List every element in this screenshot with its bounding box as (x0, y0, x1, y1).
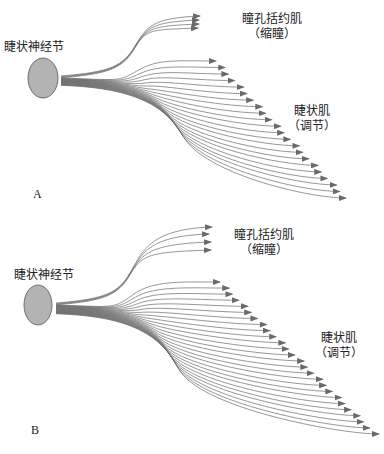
ciliary-ganglion (28, 58, 58, 98)
ciliary-fiber (56, 282, 220, 306)
sphincter-fiber (56, 250, 211, 305)
ciliary-fiber (61, 84, 321, 172)
ciliary-fiber (61, 83, 309, 159)
sphincter-fiber (56, 227, 212, 303)
ciliary-fiber (61, 61, 216, 80)
sphincter-fiber (61, 28, 198, 78)
ciliary-fiber (56, 311, 332, 391)
ciliary-function-a: （调节） (284, 119, 340, 134)
sphincter-label-b: 瞳孔括约肌 （缩瞳） (226, 228, 302, 258)
ciliary-fiber (56, 313, 360, 416)
ciliary-fiber (56, 313, 364, 422)
panel-letter-b: B (31, 423, 39, 438)
ciliary-fiber (56, 312, 342, 398)
ciliary-fiber (56, 288, 229, 307)
ciliary-label-b: 睫状肌 （调节） (311, 331, 367, 361)
sphincter-name-b: 瞳孔括约肌 (226, 228, 302, 243)
sphincter-fiber (61, 24, 199, 77)
ganglion-label-a: 睫状神经节 (4, 40, 64, 55)
ciliary-function-b: （调节） (311, 346, 367, 361)
ganglion-label-b: 睫状神经节 (14, 268, 74, 283)
diagram-canvas (0, 0, 384, 454)
sphincter-label-a: 瞳孔括约肌 （缩瞳） (234, 12, 310, 42)
ciliary-fiber (61, 85, 346, 198)
sphincter-function-a: （缩瞳） (234, 27, 310, 42)
panel-letter-a: A (33, 187, 42, 202)
ciliary-ganglion (24, 285, 52, 325)
ciliary-fiber (56, 311, 326, 385)
ciliary-name-b: 睫状肌 (311, 331, 367, 346)
ciliary-label-a: 睫状肌 （调节） (284, 104, 340, 134)
ciliary-name-a: 睫状肌 (284, 104, 340, 119)
sphincter-name-a: 瞳孔括约肌 (234, 12, 310, 27)
sphincter-fiber (56, 234, 209, 304)
sphincter-function-b: （缩瞳） (226, 243, 302, 258)
